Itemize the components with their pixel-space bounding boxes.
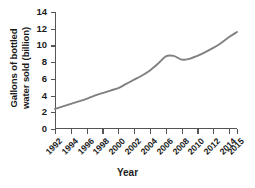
x-axis-title: Year bbox=[0, 167, 255, 178]
y-axis-title-line-2: water sold (billion) bbox=[20, 27, 31, 109]
chart-figure: Gallons of bottled water sold (billion) … bbox=[0, 0, 255, 188]
series-path bbox=[55, 32, 237, 109]
y-tick-label-0: 0 bbox=[42, 123, 47, 134]
data-series-line bbox=[55, 12, 237, 129]
y-tick-label-2: 2 bbox=[42, 106, 47, 117]
y-axis-title: Gallons of bottled water sold (billion) bbox=[0, 0, 38, 135]
y-axis-title-line-1: Gallons of bottled bbox=[8, 28, 19, 107]
x-axis-tick-labels: 1992199419961998200020022004200620082010… bbox=[55, 131, 237, 171]
y-tick-label-10: 10 bbox=[36, 39, 47, 50]
y-tick-label-4: 4 bbox=[42, 90, 47, 101]
y-tick-label-14: 14 bbox=[36, 6, 47, 17]
plot-area: 14121086420 bbox=[55, 12, 237, 129]
y-tick-label-12: 12 bbox=[36, 23, 47, 34]
x-tick-2015 bbox=[237, 129, 238, 134]
y-tick-label-6: 6 bbox=[42, 73, 47, 84]
y-tick-label-8: 8 bbox=[42, 56, 47, 67]
